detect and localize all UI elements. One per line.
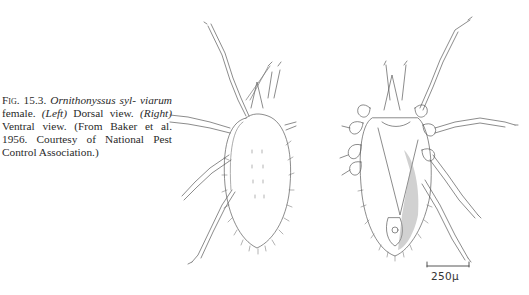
ventral-view-drawing	[340, 17, 518, 262]
mite-illustration	[0, 0, 529, 295]
dorsal-view-drawing	[170, 22, 296, 264]
scale-bar-label: 250μ	[431, 270, 459, 282]
scale-bar	[427, 262, 469, 267]
